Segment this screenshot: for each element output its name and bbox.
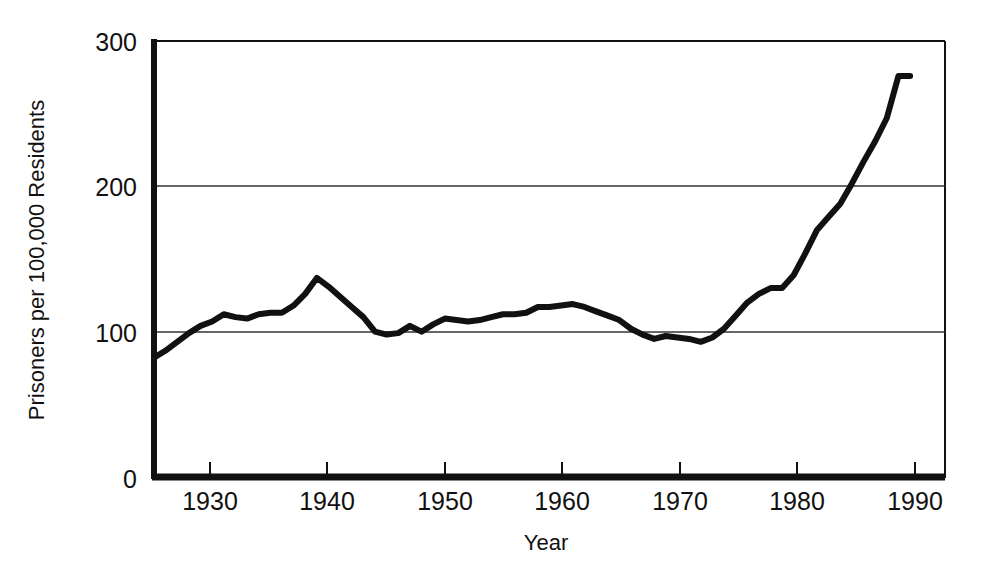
chart-background xyxy=(0,0,993,584)
chart-figure: 300 200 100 0 1930 1940 1950 1960 1970 1… xyxy=(0,0,993,584)
xtick-label-1960: 1960 xyxy=(534,487,590,515)
y-axis-title: Prisoners per 100,000 Residents xyxy=(24,100,49,420)
xtick-label-1990: 1990 xyxy=(887,487,943,515)
ytick-label-100: 100 xyxy=(95,319,137,347)
ytick-label-200: 200 xyxy=(95,173,137,201)
ytick-label-0: 0 xyxy=(123,465,137,493)
xtick-label-1930: 1930 xyxy=(182,487,238,515)
xtick-label-1970: 1970 xyxy=(652,487,708,515)
xtick-label-1950: 1950 xyxy=(417,487,473,515)
line-chart-canvas: 300 200 100 0 1930 1940 1950 1960 1970 1… xyxy=(0,0,993,584)
ytick-label-300: 300 xyxy=(95,28,137,56)
xtick-label-1980: 1980 xyxy=(769,487,825,515)
x-axis-title: Year xyxy=(524,530,568,555)
xtick-label-1940: 1940 xyxy=(299,487,355,515)
